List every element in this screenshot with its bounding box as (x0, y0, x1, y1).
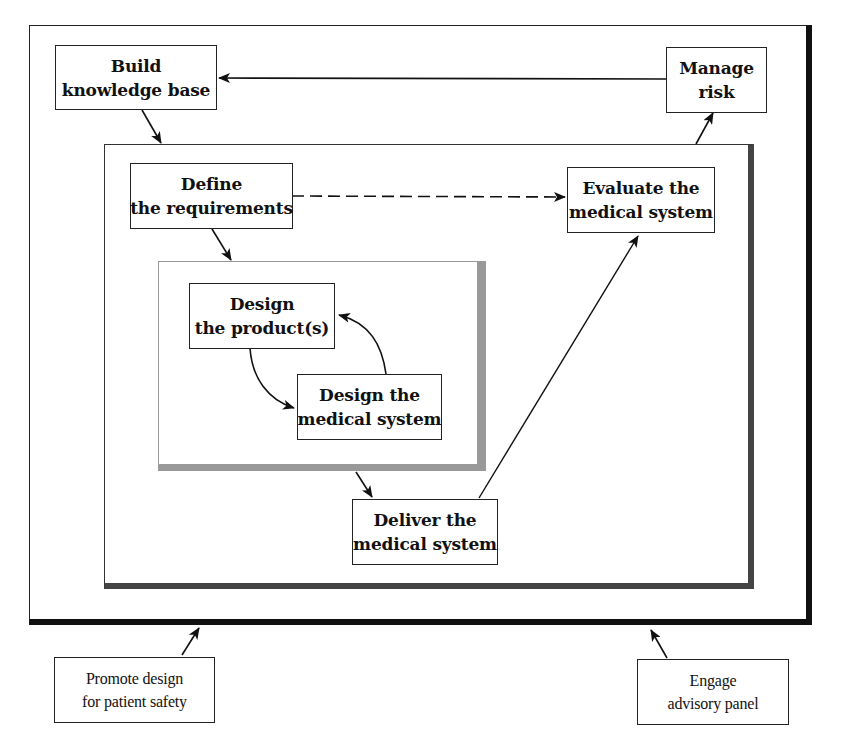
node-label-line1: Engage (690, 669, 737, 692)
node-design-medical-system: Design the medical system (297, 374, 442, 440)
node-design-products: Design the product(s) (189, 283, 335, 349)
node-label-line2: knowledge base (62, 78, 210, 102)
node-label-line2: for patient safety (82, 690, 187, 713)
node-label-line2: the product(s) (195, 316, 329, 340)
node-manage-risk: Manage risk (666, 47, 767, 113)
node-label-line1: Design (230, 292, 295, 316)
arrow-engage-to-outer (651, 630, 667, 658)
node-define-requirements: Define the requirements (130, 163, 293, 229)
node-label-line1: Design the (319, 383, 420, 407)
node-deliver-medical-system: Deliver the medical system (352, 499, 498, 565)
node-label-line2: medical system (569, 200, 713, 224)
node-label-line1: Promote design (86, 667, 183, 690)
node-label-line2: medical system (298, 407, 442, 431)
node-label-line2: medical system (353, 532, 497, 556)
node-build-knowledge-base: Build knowledge base (55, 45, 217, 110)
node-label-line1: Define (181, 172, 242, 196)
node-label-line1: Deliver the (374, 508, 477, 532)
node-label-line1: Manage (679, 56, 754, 80)
arrow-promote-to-outer (182, 628, 199, 655)
node-label-line1: Evaluate the (583, 176, 700, 200)
node-label-line2: risk (699, 80, 735, 104)
node-promote-design-patient-safety: Promote design for patient safety (54, 657, 215, 723)
node-label-line1: Build (111, 54, 162, 78)
node-engage-advisory-panel: Engage advisory panel (637, 659, 789, 725)
node-label-line2: advisory panel (668, 692, 759, 715)
node-evaluate-medical-system: Evaluate the medical system (567, 167, 715, 233)
node-label-line2: the requirements (130, 196, 293, 220)
